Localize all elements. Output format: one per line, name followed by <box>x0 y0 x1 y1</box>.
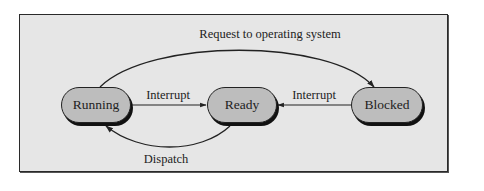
edge-ready-to-running <box>106 126 230 147</box>
state-blocked: Blocked <box>351 87 423 123</box>
edge-running-to-blocked <box>100 50 374 87</box>
edge-label-request-to-os: Request to operating system <box>199 27 340 42</box>
state-running: Running <box>61 87 131 123</box>
state-ready: Ready <box>207 87 277 123</box>
state-blocked-label: Blocked <box>365 97 410 113</box>
edge-label-interrupt-running-ready: Interrupt <box>146 88 190 103</box>
edge-label-interrupt-blocked-ready: Interrupt <box>292 88 336 103</box>
state-running-label: Running <box>73 97 120 113</box>
edge-label-dispatch: Dispatch <box>144 152 188 167</box>
state-ready-label: Ready <box>225 97 260 113</box>
